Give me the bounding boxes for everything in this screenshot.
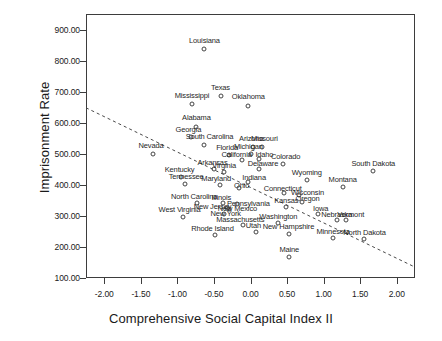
data-point [246, 103, 251, 108]
data-point [217, 182, 222, 187]
data-point [182, 181, 187, 186]
data-point-label: West Virginia [159, 205, 201, 214]
data-point [340, 185, 345, 190]
data-point [286, 231, 291, 236]
data-point [202, 47, 207, 52]
data-point [201, 143, 206, 148]
data-point-label: Rhode Island [191, 223, 233, 232]
data-point-label: Texas [211, 82, 230, 91]
data-point-label: Delaware [248, 159, 278, 168]
data-point-label: Washington [259, 211, 297, 220]
data-point [253, 230, 258, 235]
data-point [280, 161, 285, 166]
data-point-label: Wyoming [292, 168, 322, 177]
data-point-label: Virginia [212, 160, 236, 169]
data-point-label: Kansas [274, 196, 298, 205]
data-point [371, 169, 376, 174]
data-point [331, 235, 336, 240]
data-point-label: Mississippi [175, 90, 210, 99]
data-point [151, 152, 156, 157]
data-point-label: Nevada [139, 141, 164, 150]
data-point [299, 199, 304, 204]
data-point [257, 167, 262, 172]
data-point-label: South Carolina [186, 132, 234, 141]
data-point [304, 178, 309, 183]
data-point-label: Montana [329, 175, 357, 184]
data-point [190, 102, 195, 107]
data-point-label: Tennessee [169, 171, 204, 180]
data-point-label: New Hampshire [263, 222, 314, 231]
data-point-label: Alabama [182, 113, 211, 122]
data-point-label: Oklahoma [232, 92, 265, 101]
data-point-label: Maryland [201, 173, 231, 182]
data-point-label: Maine [279, 245, 299, 254]
data-point [361, 237, 366, 242]
data-point-label: Utah [246, 221, 261, 230]
data-point [180, 214, 185, 219]
data-point-label: Vermont [337, 210, 364, 219]
scatter-chart: Imprisonment Rate Comprehensive Social C… [0, 0, 442, 341]
data-point [240, 157, 245, 162]
data-point [284, 205, 289, 210]
data-point-label: Louisiana [189, 36, 220, 45]
data-point-label: North Dakota [343, 228, 385, 237]
data-point [282, 190, 287, 195]
data-point [212, 233, 217, 238]
data-point [236, 185, 241, 190]
data-point [287, 254, 292, 259]
trendline [86, 108, 415, 267]
data-point [343, 218, 348, 223]
data-point [315, 212, 320, 217]
data-point-label: North Carolina [171, 192, 217, 201]
data-point-label: South Dakota [351, 159, 395, 168]
data-point [218, 93, 223, 98]
data-point-label: California [222, 149, 252, 158]
